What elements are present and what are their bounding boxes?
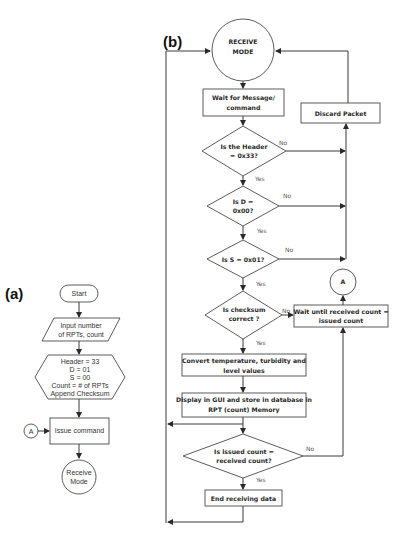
display-line2: RPT (count) Memory [208,406,279,414]
issued-count-decision: Is issued count = received count? [183,434,303,478]
flowchart-canvas: (a) Start Input number of RPTs, count He… [0,0,407,541]
receive-a-line1: Receive [66,469,91,476]
d-line2: 0x00? [233,207,254,214]
wait-count-line2: issued count [319,317,363,324]
receive-a-line2: Mode [70,478,88,485]
display-gui-box: Display in GUI and store in database in … [176,393,312,417]
header-decision: Is the Header = 0x33? [202,126,286,176]
arrow-end-to-loop [168,506,243,522]
prep-line-2: D = 01 [70,366,91,373]
wait-count-line1: Wait until received count = [293,308,388,315]
prep-line-5: Append Checksum [50,390,109,398]
d-line1: Is D = [233,198,254,205]
prep-line-1: Header = 33 [61,358,100,365]
issued-no-label: No [306,445,314,452]
connector-a-right-label: A [341,278,346,285]
prep-line-4: Count = # of RPTs [51,382,109,389]
end-receiving-label: End receiving data [211,495,276,503]
input-label-line2: of RPTs, count [58,331,104,338]
end-receiving-box: End receiving data [205,490,282,506]
checksum-yes-label: Yes [255,339,266,346]
arrow-issued-no [303,328,343,456]
start-label: Start [72,290,87,297]
d-yes-label: Yes [256,227,267,234]
d-no-label: No [283,192,291,199]
issued-line2: received count? [216,457,272,464]
receive-b-line1: RECEIVE [228,38,257,45]
s-no-label: No [285,246,293,253]
header-yes-label: Yes [254,175,265,182]
receive-mode-circle-b: RECEIVE MODE [212,19,274,81]
issue-command-label: Issue command [55,427,105,434]
checksum-no-label: No [282,307,290,314]
receive-b-line2: MODE [233,48,254,55]
convert-line2: level values [223,367,265,374]
discard-packet-box: Discard Packet [301,103,380,123]
connector-a-right: A [330,269,356,295]
issued-yes-label: Yes [255,476,266,483]
header-line1: Is the Header [220,143,268,150]
wait-message-line2: command [227,104,261,111]
convert-line1: Convert temperature, turbidity and [182,357,306,365]
prep-line-3: S = 00 [70,374,91,381]
connector-a-left: A [24,424,38,438]
convert-values-box: Convert temperature, turbidity and level… [182,354,306,376]
header-line2: = 0x33? [230,152,258,159]
wait-message-line1: Wait for Message/ [212,94,276,102]
panel-a-label: (a) [5,285,23,302]
wait-count-box: Wait until received count = issued count [293,305,388,327]
s-yes-label: Yes [255,280,266,287]
header-no-label: No [279,139,287,146]
arrow-discard-to-receive [276,51,348,103]
start-terminator: Start [60,285,98,302]
checksum-line1: Is checksum [223,306,266,313]
issued-line1: Is issued count = [214,448,274,455]
connector-a-left-label: A [29,428,34,435]
s-decision: Is S = 0x01? [207,240,279,278]
checksum-decision: Is checksum correct ? [205,291,282,339]
panel-b-label: (b) [163,33,182,50]
input-label-line1: Input number [60,322,102,330]
d-decision: Is D = 0x00? [207,186,279,226]
receive-mode-circle-a: Receive Mode [62,460,96,494]
display-line1: Display in GUI and store in database in [176,396,312,404]
issue-command-box: Issue command [50,418,109,444]
checksum-line2: correct ? [229,315,260,322]
wait-message-box: Wait for Message/ command [203,89,284,116]
input-parallelogram: Input number of RPTs, count [42,318,120,341]
preparation-hexagon: Header = 33 D = 01 S = 00 Count = # of R… [35,355,125,399]
s-line1: Is S = 0x01? [222,256,265,263]
discard-packet-label: Discard Packet [315,110,367,117]
